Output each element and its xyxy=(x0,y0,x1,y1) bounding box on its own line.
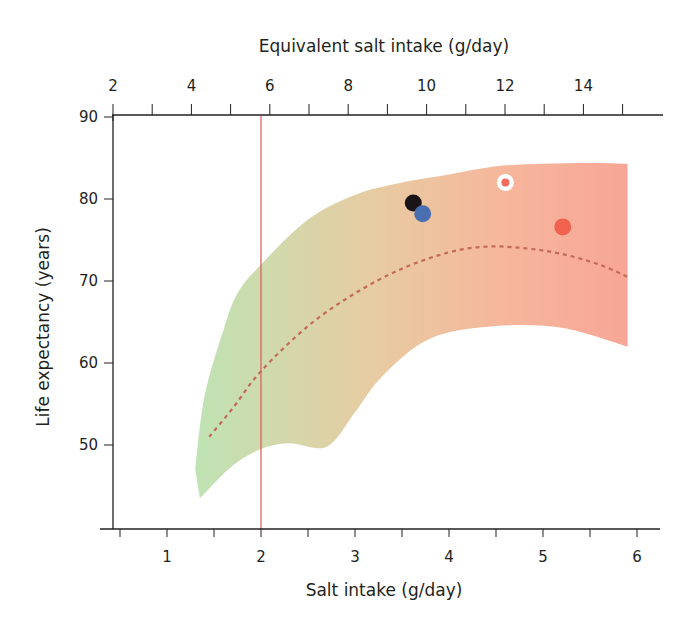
x2-tick-label: 14 xyxy=(574,77,593,95)
y-tick-label: 50 xyxy=(79,436,98,454)
x2-tick-label: 2 xyxy=(108,77,118,95)
y-tick-label: 70 xyxy=(79,272,98,290)
data-point xyxy=(554,218,571,235)
x2-axis-title: Equivalent salt intake (g/day) xyxy=(259,36,509,56)
x-tick-label: 3 xyxy=(350,548,360,566)
confidence-band xyxy=(195,163,627,498)
chart: 123456 2468101214 5060708090 Salt intake… xyxy=(0,0,696,632)
x-tick-label: 1 xyxy=(162,548,172,566)
x-tick-label: 4 xyxy=(444,548,454,566)
x-tick-label: 6 xyxy=(632,548,642,566)
x-tick-label: 5 xyxy=(538,548,548,566)
x2-tick-label: 6 xyxy=(265,77,275,95)
x2-tick-label: 8 xyxy=(343,77,353,95)
y-tick-label: 90 xyxy=(79,108,98,126)
y-axis-ticks: 5060708090 xyxy=(79,108,113,454)
x-axis-title: Salt intake (g/day) xyxy=(306,580,463,600)
y-tick-label: 60 xyxy=(79,354,98,372)
x-axis-ticks: 123456 xyxy=(120,529,642,566)
y-axis-title: Life expectancy (years) xyxy=(33,227,53,427)
y-tick-label: 80 xyxy=(79,190,98,208)
x2-tick-label: 10 xyxy=(417,77,436,95)
x2-tick-label: 4 xyxy=(187,77,197,95)
data-point xyxy=(414,205,431,222)
data-point xyxy=(501,179,509,187)
x2-tick-label: 12 xyxy=(495,77,514,95)
x-tick-label: 2 xyxy=(256,548,266,566)
